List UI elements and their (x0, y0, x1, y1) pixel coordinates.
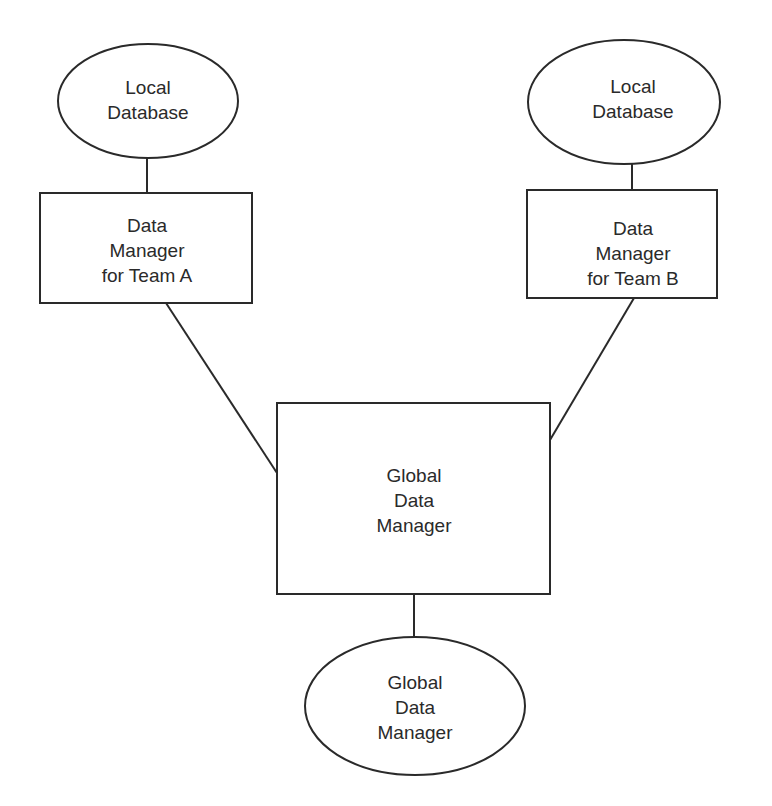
label-line: Manager (378, 720, 453, 745)
global-data-manager-label: Global Data Manager (377, 463, 452, 538)
label-line: for Team A (102, 263, 192, 288)
label-line: Manager (102, 238, 192, 263)
label-line: Database (107, 100, 188, 125)
label-line: Database (592, 99, 673, 124)
label-line: Manager (587, 241, 679, 266)
label-line: Global (377, 463, 452, 488)
label-line: Data (377, 488, 452, 513)
local-database-b-label: Local Database (592, 74, 673, 124)
edge-dm-b-to-global (550, 298, 634, 440)
data-manager-team-a-label: Data Manager for Team A (102, 213, 192, 288)
label-line: Data (587, 216, 679, 241)
label-line: Data (378, 695, 453, 720)
label-line: Global (378, 670, 453, 695)
label-line: Local (592, 74, 673, 99)
local-database-a-label: Local Database (107, 75, 188, 125)
label-line: Manager (377, 513, 452, 538)
label-line: Local (107, 75, 188, 100)
data-manager-team-b-label: Data Manager for Team B (587, 216, 679, 291)
global-data-manager-store-label: Global Data Manager (378, 670, 453, 745)
edge-dm-a-to-global (166, 303, 277, 473)
label-line: for Team B (587, 266, 679, 291)
label-line: Data (102, 213, 192, 238)
